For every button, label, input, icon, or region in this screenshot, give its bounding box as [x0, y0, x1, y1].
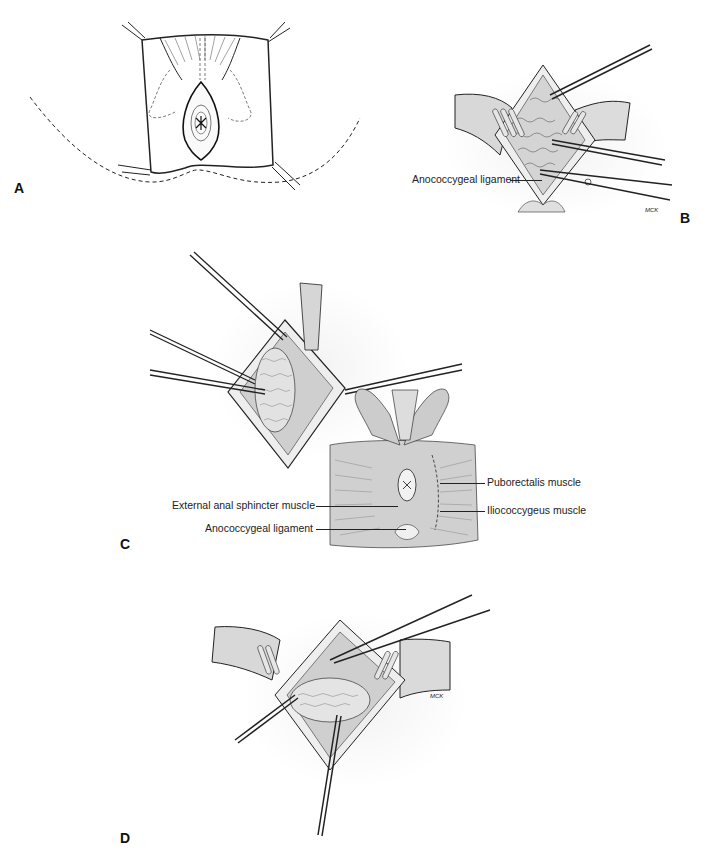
panel-letter-a: A — [14, 180, 24, 196]
label-c-puborectalis-muscle: Puborectalis muscle — [487, 476, 581, 488]
panel-a: A — [0, 0, 370, 200]
panel-letter-b: B — [680, 210, 690, 226]
leader-line-c-anococcygeal — [316, 529, 406, 530]
perineal-incision-illustration — [0, 0, 370, 200]
panel-d: MCK D — [0, 590, 706, 854]
label-b-anococcygeal-ligament: Anococcygeal ligament — [412, 173, 520, 185]
leader-line-c-iliococcygeus — [440, 511, 485, 512]
panel-letter-c: C — [120, 536, 130, 552]
label-c-anococcygeal-ligament: Anococcygeal ligament — [205, 522, 313, 534]
label-c-external-anal-sphincter-muscle: External anal sphincter muscle — [172, 499, 315, 511]
label-c-iliococcygeus-muscle: Iliococcygeus muscle — [487, 504, 586, 516]
anococcygeal-dissection-illustration — [400, 0, 706, 235]
panel-c: Puborectalis muscle Iliococcygeus muscle… — [0, 240, 706, 560]
leader-line-c-external-sphincter — [316, 506, 398, 507]
leader-line-b-anococcygeal — [510, 180, 542, 181]
leader-line-c-puborectalis — [440, 483, 485, 484]
signature-d: MCK — [430, 693, 443, 699]
rectal-mobilization-illustration — [0, 240, 706, 560]
signature-b: MCK — [645, 207, 658, 213]
panel-letter-d: D — [120, 830, 130, 846]
levator-division-illustration — [0, 590, 706, 854]
panel-b: Anococcygeal ligament MCK B — [400, 0, 706, 235]
